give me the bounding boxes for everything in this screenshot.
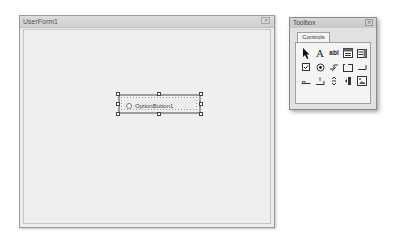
toolbox-window[interactable]: Toolbox ✕ Controls A abl [289, 17, 377, 110]
frame-tool[interactable] [341, 60, 355, 74]
tool-grid: A abl [299, 46, 369, 88]
controls-panel: A abl [295, 42, 371, 104]
label-a-icon: A [316, 48, 324, 59]
combobox-tool[interactable] [341, 46, 355, 60]
listbox-tool[interactable] [355, 46, 369, 60]
tabstrip-tool[interactable] [299, 74, 313, 88]
toolbox-titlebar[interactable]: Toolbox ✕ [290, 18, 376, 28]
optionbutton-tool[interactable] [313, 60, 327, 74]
toolbox-title: Toolbox [293, 19, 315, 27]
select-objects-tool[interactable] [299, 46, 313, 60]
combobox-icon [343, 48, 353, 58]
resize-handle-ne[interactable] [199, 92, 203, 96]
scrollbar-icon [330, 76, 338, 86]
radio-button-icon [316, 63, 325, 72]
arrow-pointer-icon [302, 48, 311, 59]
scrollbar-tool[interactable] [327, 74, 341, 88]
close-icon[interactable]: ✕ [261, 17, 270, 24]
command-button-icon [357, 63, 367, 71]
resize-handle-w[interactable] [116, 102, 120, 106]
userform-titlebar[interactable]: UserForm1 ✕ [20, 16, 274, 28]
multipage-icon [315, 76, 325, 86]
form-design-canvas[interactable]: OptionButton1 [23, 29, 271, 224]
resize-handle-se[interactable] [199, 112, 203, 116]
resize-handle-s[interactable] [157, 112, 161, 116]
userform-window[interactable]: UserForm1 ✕ OptionButton1 [19, 15, 275, 228]
option-button-control[interactable]: OptionButton1 [118, 94, 201, 114]
resize-handle-n[interactable] [157, 92, 161, 96]
commandbutton-tool[interactable] [355, 60, 369, 74]
label-tool[interactable]: A [313, 46, 327, 60]
image-tool[interactable] [355, 74, 369, 88]
spinbutton-tool[interactable] [341, 74, 355, 88]
togglebutton-tool[interactable] [327, 60, 341, 74]
textbox-abl-icon: abl [329, 50, 338, 57]
checkbox-tool[interactable] [299, 60, 313, 74]
frame-icon [343, 63, 353, 72]
image-icon [357, 76, 367, 86]
toggle-button-icon [329, 62, 339, 72]
tab-controls[interactable]: Controls [297, 32, 330, 42]
close-icon[interactable]: ✕ [365, 19, 373, 26]
spin-button-icon [344, 76, 353, 86]
option-button-caption: OptionButton1 [135, 102, 173, 110]
resize-handle-nw[interactable] [116, 92, 120, 96]
option-button-body[interactable]: OptionButton1 [123, 99, 196, 109]
listbox-icon [357, 49, 367, 58]
tabstrip-icon [301, 77, 311, 85]
resize-handle-e[interactable] [199, 102, 203, 106]
resize-handle-sw[interactable] [116, 112, 120, 116]
textbox-tool[interactable]: abl [327, 46, 341, 60]
radio-circle-icon [126, 103, 132, 109]
multipage-tool[interactable] [313, 74, 327, 88]
checkbox-icon [302, 63, 311, 72]
userform-title: UserForm1 [23, 17, 58, 26]
